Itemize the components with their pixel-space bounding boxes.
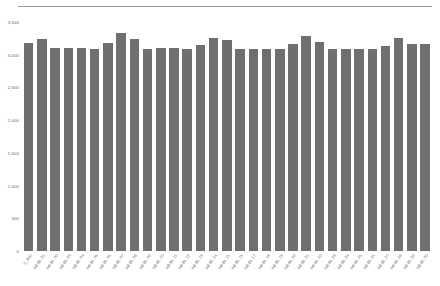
y-axis-tick-label: 0 — [17, 249, 19, 254]
x-axis: 2_INDAB.BL.01AB.BL.02AB.BL.03AB.BL.04AB.… — [22, 252, 432, 286]
bar[interactable] — [394, 38, 404, 251]
bar[interactable] — [328, 49, 338, 251]
bar-slot — [167, 22, 180, 251]
bar[interactable] — [222, 40, 232, 251]
bar-slot — [247, 22, 260, 251]
bar-slot — [220, 22, 233, 251]
bar-slot — [313, 22, 326, 251]
bar[interactable] — [341, 49, 351, 251]
x-tick-slot: AB.BL.17 — [247, 252, 260, 286]
bar[interactable] — [77, 48, 87, 251]
y-axis: 3,5003,0002,5002,0001,5001,0005000 — [0, 0, 22, 286]
bar-slot — [194, 22, 207, 251]
x-tick-slot: AB.BL.26 — [366, 252, 379, 286]
bar[interactable] — [301, 36, 311, 251]
bar-slot — [392, 22, 405, 251]
bar-slot — [352, 22, 365, 251]
bar[interactable] — [182, 49, 192, 251]
bar[interactable] — [354, 49, 364, 251]
bar[interactable] — [156, 48, 166, 251]
bar-slot — [379, 22, 392, 251]
y-axis-tick-label: 1,500 — [8, 150, 19, 155]
bar[interactable] — [90, 49, 100, 251]
bar-slot — [22, 22, 35, 251]
bar[interactable] — [116, 33, 126, 251]
bar-slot — [154, 22, 167, 251]
bar[interactable] — [288, 44, 298, 251]
bar[interactable] — [196, 45, 206, 251]
x-tick-slot: AB.BL.08 — [128, 252, 141, 286]
top-divider-rule — [18, 6, 432, 7]
y-axis-tick-label: 500 — [12, 216, 19, 221]
bar-slot — [35, 22, 48, 251]
bar-slot — [419, 22, 432, 251]
bar-series — [22, 22, 432, 251]
bar[interactable] — [249, 49, 259, 251]
bar[interactable] — [315, 42, 325, 251]
bar-slot — [62, 22, 75, 251]
bar-slot — [128, 22, 141, 251]
bar-slot — [366, 22, 379, 251]
bar[interactable] — [169, 48, 179, 251]
bar-slot — [48, 22, 61, 251]
y-axis-tick-label: 3,000 — [8, 52, 19, 57]
bar[interactable] — [209, 38, 219, 251]
bar-slot — [273, 22, 286, 251]
x-tick-slot: AB.BL.30 — [419, 252, 432, 286]
x-tick-slot: AB.BL.10 — [154, 252, 167, 286]
bar-slot — [339, 22, 352, 251]
bar[interactable] — [275, 49, 285, 251]
bar-slot — [75, 22, 88, 251]
bar-slot — [326, 22, 339, 251]
bar-slot — [115, 22, 128, 251]
y-axis-tick-label: 1,000 — [8, 183, 19, 188]
bar[interactable] — [368, 49, 378, 251]
bar-slot — [101, 22, 114, 251]
bar[interactable] — [143, 49, 153, 251]
y-axis-tick-label: 3,500 — [8, 20, 19, 25]
bar-slot — [141, 22, 154, 251]
bar-slot — [181, 22, 194, 251]
bar-chart-figure: 3,5003,0002,5002,0001,5001,0005000 2_IND… — [0, 0, 440, 286]
bar-slot — [286, 22, 299, 251]
bar[interactable] — [235, 49, 245, 251]
bar-slot — [260, 22, 273, 251]
bar[interactable] — [103, 43, 113, 251]
bar-slot — [234, 22, 247, 251]
bar-slot — [300, 22, 313, 251]
bar[interactable] — [407, 44, 417, 251]
bar-slot — [88, 22, 101, 251]
y-axis-tick-label: 2,500 — [8, 85, 19, 90]
x-axis-tick-label: 2_IND — [22, 253, 33, 266]
bar[interactable] — [262, 49, 272, 252]
bar[interactable] — [24, 43, 34, 251]
bar[interactable] — [37, 39, 47, 251]
bar[interactable] — [420, 44, 430, 251]
y-axis-tick-label: 2,000 — [8, 118, 19, 123]
bar[interactable] — [381, 46, 391, 251]
bar[interactable] — [64, 48, 74, 251]
bar-slot — [405, 22, 418, 251]
bar[interactable] — [130, 39, 140, 251]
bar-slot — [207, 22, 220, 251]
bar[interactable] — [50, 48, 60, 251]
